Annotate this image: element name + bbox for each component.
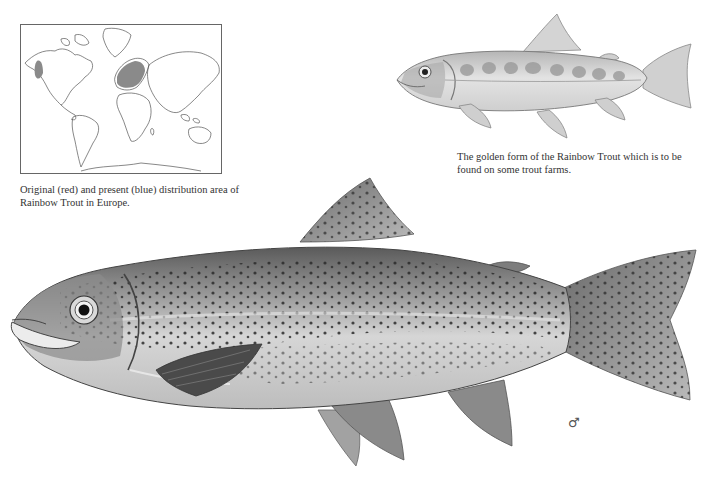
distribution-map [20,24,222,174]
original-range-shading [35,61,43,79]
male-symbol: ♂ [568,415,580,430]
world-map-outline [21,25,221,173]
rainbow-trout-illustration [0,170,711,487]
present-range-shading [117,61,145,88]
golden-trout-illustration [385,8,711,140]
